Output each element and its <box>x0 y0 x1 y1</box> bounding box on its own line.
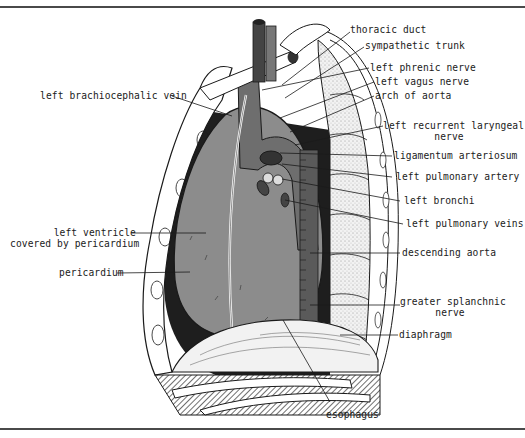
label-left-recurrent-laryngeal-nerve: left recurrent laryngeal nerve <box>383 120 515 142</box>
label-left-pulmonary-artery: left pulmonary artery <box>396 171 519 182</box>
label-ligamentum-arteriosum: ligamentum arteriosum <box>394 150 517 161</box>
label-esophagus: esophagus <box>326 409 379 420</box>
label-pericardium: pericardium <box>59 267 124 278</box>
label-line-1: left recurrent laryngeal <box>383 120 515 131</box>
label-sympathetic-trunk: sympathetic trunk <box>365 40 465 51</box>
label-left-ventricle: left ventricle covered by pericardium <box>10 227 136 249</box>
label-line-1: greater splanchnic <box>400 296 500 307</box>
label-descending-aorta: descending aorta <box>402 247 496 258</box>
label-greater-splanchnic-nerve: greater splanchnic nerve <box>400 296 500 318</box>
label-diaphragm: diaphragm <box>399 329 452 340</box>
label-line-2: nerve <box>383 131 515 142</box>
label-line-2: nerve <box>400 307 500 318</box>
label-left-bronchi: left bronchi <box>404 195 475 206</box>
label-line-1: left ventricle <box>10 227 136 238</box>
label-line-2: covered by pericardium <box>10 238 136 249</box>
label-left-vagus-nerve: left vagus nerve <box>375 76 469 87</box>
label-left-brachiocephalic-vein: left brachiocephalic vein <box>40 90 187 101</box>
label-thoracic-duct: thoracic duct <box>350 24 426 35</box>
label-left-phrenic-nerve: left phrenic nerve <box>370 62 476 73</box>
label-arch-of-aorta: arch of aorta <box>375 90 451 101</box>
label-left-pulmonary-veins: left pulmonary veins <box>406 218 524 229</box>
